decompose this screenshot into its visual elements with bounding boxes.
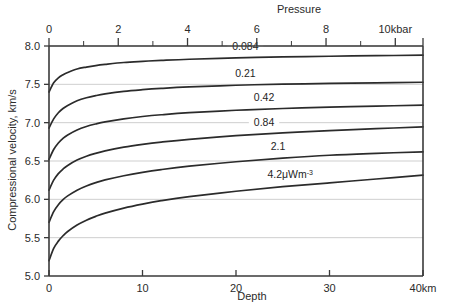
ticklabel-bottom-30: 30 bbox=[323, 282, 335, 294]
ticklabel-bottom-0: 0 bbox=[46, 282, 52, 294]
curve-label-0.84: 0.84 bbox=[254, 116, 275, 128]
x-axis-title-depth: Depth bbox=[237, 290, 266, 302]
curve-group bbox=[49, 55, 423, 260]
ticklabel-y-5.5: 5.5 bbox=[25, 232, 40, 244]
compressional-velocity-vs-depth-chart: 0.0840.210.420.842.14.2μWm-3 0246810kbar… bbox=[0, 0, 452, 308]
ticklabel-top-0: 0 bbox=[46, 23, 52, 35]
y-axis-title: Compressional velocity, km/s bbox=[6, 89, 18, 231]
ticklabel-y-8.0: 8.0 bbox=[25, 40, 40, 52]
ticklabel-y-7.0: 7.0 bbox=[25, 117, 40, 129]
curve-2.1 bbox=[49, 152, 423, 223]
tick-labels: 0246810kbar010203040km5.05.56.06.57.07.5… bbox=[25, 23, 437, 294]
x-axis-title-pressure: Pressure bbox=[277, 3, 321, 15]
ticklabel-y-7.5: 7.5 bbox=[25, 78, 40, 90]
ticklabel-y-5.0: 5.0 bbox=[25, 270, 40, 282]
curve-label-0.21: 0.21 bbox=[235, 67, 256, 79]
curve-4.2 bbox=[49, 175, 423, 260]
ticklabel-y-6.5: 6.5 bbox=[25, 155, 40, 167]
ticklabel-top-2: 2 bbox=[115, 23, 121, 35]
ticklabel-top-10: 10kbar bbox=[378, 23, 412, 35]
ticklabel-top-4: 4 bbox=[184, 23, 190, 35]
curve-label-2.1: 2.1 bbox=[271, 140, 286, 152]
chart-figure: 0.0840.210.420.842.14.2μWm-3 0246810kbar… bbox=[0, 0, 452, 308]
curve-label-0.42: 0.42 bbox=[254, 91, 275, 103]
curve-label-4.2: 4.2μWm-3 bbox=[267, 168, 313, 180]
ticklabel-top-6: 6 bbox=[254, 23, 260, 35]
ticklabel-bottom-10: 10 bbox=[136, 282, 148, 294]
ticklabel-bottom-40: 40km bbox=[410, 282, 437, 294]
ticklabel-top-8: 8 bbox=[323, 23, 329, 35]
curve-label-superscript: -3 bbox=[307, 169, 313, 176]
ticklabel-y-6.0: 6.0 bbox=[25, 193, 40, 205]
